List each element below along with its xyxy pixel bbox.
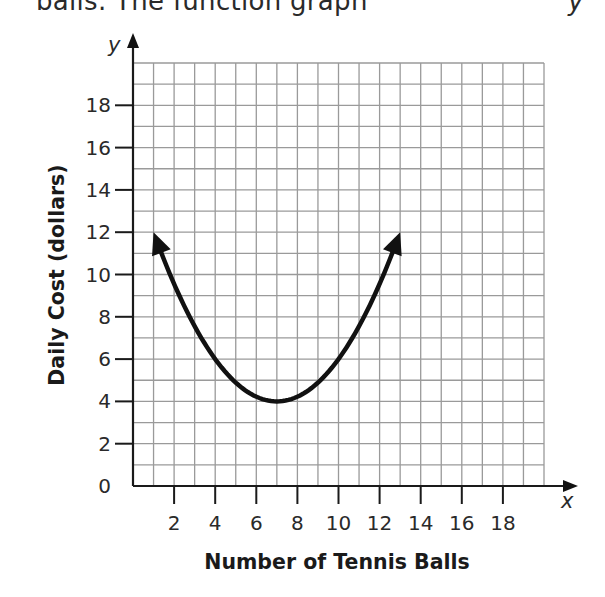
y-tick-label: 16 (86, 136, 111, 160)
y-tick-label: 0 (98, 474, 111, 498)
x-axis-variable-label: x (560, 489, 574, 513)
y-tick-label: 6 (98, 347, 111, 371)
y-tick-label: 18 (86, 93, 111, 117)
y-tick-label: 14 (86, 178, 111, 202)
x-tick-label: 4 (209, 511, 222, 535)
y-tick-label: 2 (98, 432, 111, 456)
x-axis-title: Number of Tennis Balls (204, 550, 470, 574)
y-tick-label: 10 (86, 263, 111, 287)
y-tick-label: 12 (86, 220, 111, 244)
x-tick-label: 6 (250, 511, 263, 535)
y-tick-label: 4 (98, 389, 111, 413)
y-axis-title: Daily Cost (dollars) (45, 164, 69, 385)
x-tick-label: 12 (367, 511, 392, 535)
x-tick-label: 10 (326, 511, 351, 535)
grid (133, 63, 544, 486)
x-tick-label: 18 (490, 511, 515, 535)
x-tick-label: 16 (449, 511, 474, 535)
y-axis-variable-label: y (107, 33, 121, 57)
x-tick-label: 8 (291, 511, 304, 535)
y-axis-arrow-icon (127, 33, 139, 48)
parabola-chart: 02468101214161824681012141618 y x Number… (0, 0, 605, 597)
x-tick-label: 2 (168, 511, 181, 535)
x-tick-label: 14 (408, 511, 433, 535)
y-tick-label: 8 (98, 305, 111, 329)
ticks: 02468101214161824681012141618 (86, 93, 516, 535)
